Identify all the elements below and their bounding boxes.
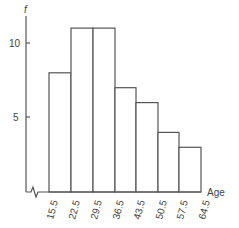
- histogram-bar: [179, 147, 201, 192]
- x-tick-label: 57.5: [174, 198, 190, 220]
- x-tick-label: 22.5: [66, 198, 82, 220]
- histogram-bar: [136, 103, 158, 192]
- x-tick-label: 29.5: [88, 198, 104, 220]
- x-tick-label: 50.5: [153, 198, 169, 220]
- histogram-bar: [115, 88, 136, 192]
- histogram-bar: [49, 73, 71, 192]
- x-axis-label: Age: [207, 187, 225, 198]
- x-tick-label: 15.5: [44, 198, 60, 220]
- x-tick-label: 36.5: [110, 198, 126, 220]
- x-tick-labels: 15.522.529.536.543.550.557.564.5: [44, 198, 212, 220]
- histogram-bars: [49, 28, 201, 192]
- x-tick-label: 64.5: [196, 198, 212, 220]
- histogram-bar: [158, 132, 179, 192]
- x-tick-label: 43.5: [131, 198, 147, 220]
- y-tick-label-5: 5: [13, 112, 19, 123]
- histogram-bar: [93, 28, 115, 192]
- histogram-chart: f 10 5 Age 15.522.529.536.543.550.557.56…: [0, 0, 239, 228]
- histogram-bar: [71, 28, 93, 192]
- y-axis-label: f: [24, 4, 28, 15]
- y-tick-label-10: 10: [9, 38, 21, 49]
